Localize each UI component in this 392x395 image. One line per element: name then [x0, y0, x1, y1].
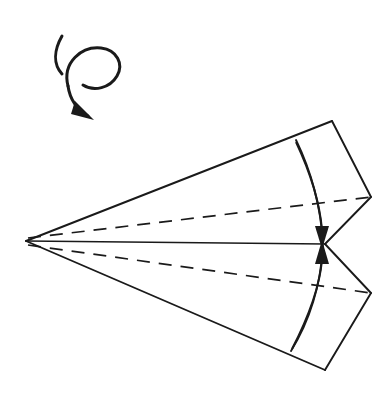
- origami-diagram-canvas: [0, 0, 392, 395]
- rotate-arrow-group: [56, 36, 120, 120]
- rotate-arrow-tail: [56, 36, 62, 74]
- facet-upper-wing: [26, 121, 371, 244]
- rotate-arrow-head: [71, 101, 94, 120]
- origami-diagram-svg: [0, 0, 392, 395]
- facet-fills: [26, 121, 371, 370]
- rotate-arrow-loop: [67, 48, 120, 89]
